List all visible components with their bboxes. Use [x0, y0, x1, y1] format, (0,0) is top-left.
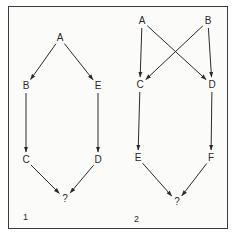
panel-1-node-a: A: [57, 33, 64, 43]
panel-1-arrow-a-to-b: [31, 44, 56, 80]
panel-1-node-b: B: [23, 81, 30, 91]
panel-2-arrow-a-to-c: [140, 28, 142, 77]
panel-1-node-c: C: [22, 155, 29, 165]
panel-2-label: 2: [134, 215, 139, 224]
panel-2-arrow-e-to-question: [143, 163, 172, 196]
panel-2-arrow-c-to-e: [138, 92, 140, 150]
panel-2-node-e: E: [135, 153, 142, 163]
panel-1-arrow-a-to-e: [64, 44, 93, 80]
panel-2-arrow-f-to-question: [182, 164, 207, 196]
panel-2-node-c: C: [136, 80, 143, 90]
panel-2-node-d: D: [208, 80, 215, 90]
panel-2-node-a: A: [139, 16, 146, 26]
panel-1-node-e: E: [95, 81, 102, 91]
panel-1-arrow-d-to-question: [70, 165, 93, 193]
panel-2-arrow-d-to-f: [211, 92, 212, 150]
panel-1-node-question: ?: [62, 194, 68, 204]
panel-1-node-d: D: [94, 155, 101, 165]
panel-2-node-question: ?: [174, 197, 180, 207]
panel-2-node-f: F: [208, 153, 214, 163]
diagram-edges: [0, 0, 236, 239]
panel-2-arrow-a-to-d: [147, 26, 206, 80]
panel-2-node-b: B: [205, 16, 212, 26]
panel-2-arrow-b-to-d: [208, 28, 211, 77]
panel-1-arrow-c-to-question: [31, 165, 59, 193]
panel-2-arrow-b-to-c: [146, 26, 203, 80]
panel-1-label: 1: [23, 213, 28, 222]
